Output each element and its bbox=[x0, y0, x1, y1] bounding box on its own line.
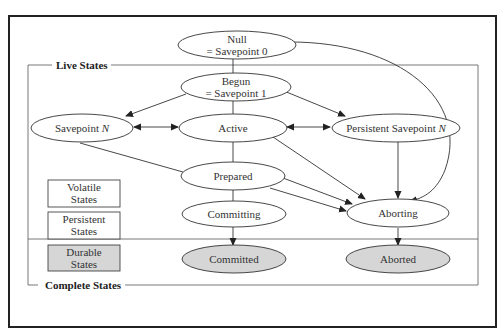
svg-text:Durable: Durable bbox=[66, 246, 102, 258]
node-persistent-savepoint-n: Persistent Savepoint N bbox=[332, 114, 460, 142]
node-begun: Begun = Savepoint 1 bbox=[181, 73, 291, 101]
svg-text:Prepared: Prepared bbox=[213, 170, 253, 182]
svg-text:Volatile: Volatile bbox=[67, 181, 101, 193]
svg-text:States: States bbox=[71, 225, 97, 237]
svg-text:Persistent: Persistent bbox=[63, 213, 106, 225]
edge-savepoint-prepared bbox=[80, 143, 183, 172]
node-aborted: Aborted bbox=[346, 245, 450, 273]
edge-begun-persistent bbox=[284, 91, 345, 116]
svg-text:= Savepoint 0: = Savepoint 0 bbox=[206, 45, 268, 57]
svg-text:= Savepoint 1: = Savepoint 1 bbox=[205, 87, 266, 99]
legend-durable: Durable States bbox=[48, 245, 120, 271]
complete-states-label: Complete States bbox=[45, 279, 122, 291]
svg-text:Aborting: Aborting bbox=[378, 207, 418, 219]
svg-text:Savepoint N: Savepoint N bbox=[55, 122, 110, 134]
svg-text:Active: Active bbox=[218, 122, 247, 134]
svg-text:Committing: Committing bbox=[207, 208, 261, 220]
legend-volatile: Volatile States bbox=[48, 180, 120, 207]
svg-text:Persistent Savepoint N: Persistent Savepoint N bbox=[346, 122, 446, 134]
node-active: Active bbox=[179, 114, 287, 142]
node-prepared: Prepared bbox=[181, 162, 285, 190]
legend-persistent: Persistent States bbox=[48, 212, 120, 239]
node-aborting: Aborting bbox=[347, 199, 449, 227]
edge-begun-savepoint bbox=[126, 94, 186, 116]
svg-text:States: States bbox=[71, 258, 97, 270]
svg-text:Committed: Committed bbox=[209, 253, 259, 265]
edge-prepared-aborting-2 bbox=[270, 188, 346, 211]
edge-prepared-aborting-1 bbox=[283, 178, 352, 204]
svg-text:Begun: Begun bbox=[222, 75, 251, 87]
node-savepoint-n: Savepoint N bbox=[31, 114, 133, 142]
live-states-label: Live States bbox=[56, 59, 108, 71]
node-null: Null = Savepoint 0 bbox=[178, 31, 296, 59]
transaction-state-diagram: Live States Complete States Null = Savep… bbox=[0, 0, 503, 332]
node-committed: Committed bbox=[182, 245, 286, 273]
edge-active-aborting bbox=[273, 137, 365, 199]
node-committing: Committing bbox=[182, 201, 286, 227]
svg-text:States: States bbox=[71, 193, 97, 205]
svg-text:Null: Null bbox=[227, 33, 247, 45]
svg-text:Aborted: Aborted bbox=[380, 253, 417, 265]
